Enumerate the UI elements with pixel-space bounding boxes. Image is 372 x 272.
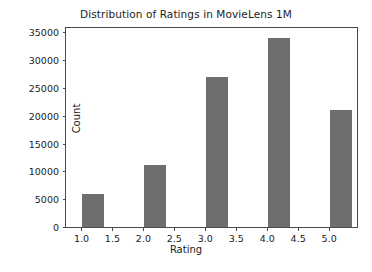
y-tick-mark — [63, 199, 67, 200]
y-tick-mark — [63, 60, 67, 61]
y-tick-label: 20000 — [29, 110, 59, 121]
y-tick-mark — [63, 144, 67, 145]
x-tick-label: 4.5 — [291, 233, 306, 244]
plot-area: Count 0500010000150002000025000300003500… — [65, 27, 358, 228]
chart-title: Distribution of Ratings in MovieLens 1M — [0, 8, 372, 20]
bar — [143, 164, 167, 227]
bar — [205, 76, 229, 227]
x-tick-label: 2.5 — [167, 233, 182, 244]
x-tick-mark — [81, 227, 82, 231]
y-axis-label: Count — [71, 59, 82, 179]
y-tick-label: 0 — [53, 222, 59, 233]
y-tick-label: 10000 — [29, 166, 59, 177]
y-tick-mark — [63, 227, 67, 228]
bar — [81, 193, 105, 227]
x-tick-label: 4.0 — [260, 233, 275, 244]
x-tick-mark — [329, 227, 330, 231]
y-tick-label: 5000 — [35, 194, 59, 205]
x-tick-label: 3.5 — [229, 233, 244, 244]
chart-figure: Distribution of Ratings in MovieLens 1M … — [0, 0, 372, 272]
y-tick-label: 30000 — [29, 55, 59, 66]
y-tick-label: 15000 — [29, 138, 59, 149]
x-tick-label: 5.0 — [322, 233, 337, 244]
x-tick-mark — [174, 227, 175, 231]
bar — [329, 109, 353, 227]
x-tick-mark — [267, 227, 268, 231]
x-tick-mark — [205, 227, 206, 231]
y-tick-mark — [63, 88, 67, 89]
x-tick-label: 2.0 — [136, 233, 151, 244]
y-tick-mark — [63, 32, 67, 33]
bars-layer — [66, 28, 357, 227]
x-tick-label: 1.5 — [105, 233, 120, 244]
x-tick-mark — [298, 227, 299, 231]
x-tick-label: 1.0 — [74, 233, 89, 244]
bar — [267, 37, 291, 227]
y-tick-label: 25000 — [29, 83, 59, 94]
x-tick-mark — [143, 227, 144, 231]
x-tick-mark — [112, 227, 113, 231]
y-tick-mark — [63, 171, 67, 172]
x-tick-mark — [236, 227, 237, 231]
x-axis-label: Rating — [0, 244, 372, 255]
y-tick-label: 35000 — [29, 27, 59, 38]
x-tick-label: 3.0 — [198, 233, 213, 244]
y-tick-mark — [63, 116, 67, 117]
